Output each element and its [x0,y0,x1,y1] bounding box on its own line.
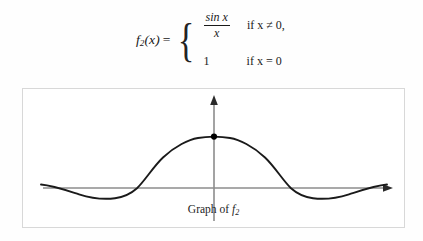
cases-list: sin x x if x ≠ 0, 1 if x = 0 [204,11,285,68]
graph-frame: Graph of f2 [22,88,405,228]
case-row-zero: 1 if x = 0 [204,54,285,69]
function-label: f2(x)= [136,32,173,48]
page-root: f2(x)= { sin x x if x ≠ 0, 1 if x = 0 [0,0,423,241]
caption-subscript: 2 [235,208,239,217]
case-condition-zero: if x = 0 [247,54,282,69]
function-argument: (x) [144,32,159,47]
x-axis [43,184,393,192]
graph-caption: Graph of f2 [23,203,404,217]
equals-sign: = [163,32,171,47]
origin-dot-marker [211,134,217,140]
fraction-sinx-over-x: sin x x [204,11,230,39]
caption-prefix: Graph of [188,203,232,215]
case-row-nonzero: sin x x if x ≠ 0, [204,11,285,39]
fraction-numerator: sin x [204,11,230,25]
case-condition-nonzero: if x ≠ 0, [247,18,285,33]
fraction-denominator: x [212,26,221,40]
piecewise-formula: f2(x)= { sin x x if x ≠ 0, 1 if x = 0 [136,6,316,74]
case-value-zero: 1 [204,54,230,69]
